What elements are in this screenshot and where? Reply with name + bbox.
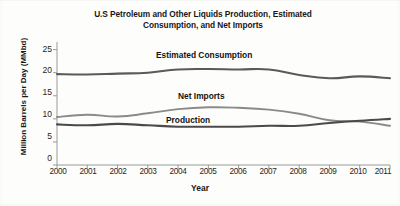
- page-edge-left: [0, 0, 2, 206]
- series-line-estimated-consumption: [57, 69, 390, 78]
- y-axis-label: Million Barrels per Day (MMbd): [19, 22, 28, 172]
- x-tick-label-2001: 2001: [71, 167, 105, 176]
- x-tick-label-2008: 2008: [281, 167, 315, 176]
- x-tick-label-2011: 2011: [366, 167, 400, 176]
- y-axis-ticks: [53, 50, 57, 165]
- plot-area: [57, 45, 390, 165]
- y-tick-label-5: 5: [30, 131, 52, 141]
- x-tick-label-2006: 2006: [221, 167, 255, 176]
- y-tick-label-15: 15: [30, 87, 52, 97]
- x-tick-label-2007: 2007: [251, 167, 285, 176]
- chart-title-line-1: U.S Petroleum and Other Liquids Producti…: [94, 9, 312, 19]
- series-line-production: [57, 119, 390, 127]
- chart-figure: U.S Petroleum and Other Liquids Producti…: [0, 0, 400, 206]
- y-tick-label-20: 20: [30, 65, 52, 75]
- chart-title: U.S Petroleum and Other Liquids Producti…: [48, 9, 358, 30]
- page-edge-top: [0, 0, 400, 1]
- plot-svg: [57, 45, 390, 165]
- x-axis-label: Year: [0, 183, 400, 193]
- x-tick-label-2000: 2000: [41, 167, 75, 176]
- page-edge-bottom: [0, 204, 400, 206]
- chart-title-line-2: Consumption, and Net Imports: [143, 20, 263, 30]
- y-tick-label-10: 10: [30, 109, 52, 119]
- y-tick-label-25: 25: [30, 44, 52, 54]
- x-tick-label-2009: 2009: [311, 167, 345, 176]
- y-tick-label-0: 0: [30, 153, 52, 163]
